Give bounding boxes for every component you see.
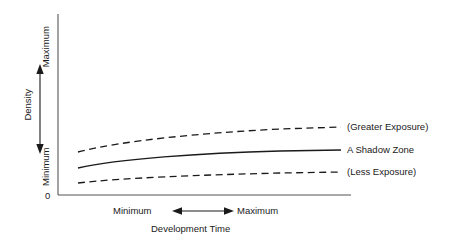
series-label-shadow-zone: A Shadow Zone — [347, 145, 414, 155]
series-line-less-exposure — [78, 172, 341, 183]
y-axis-tick-minimum: Minimum — [41, 137, 51, 197]
x-axis-tick-maximum: Maximum — [237, 206, 278, 216]
series-label-greater-exposure: (Greater Exposure) — [347, 122, 428, 132]
y-axis-title: Density — [23, 85, 33, 125]
chart-figure: Density Maximum Minimum 0 Minimum Maximu… — [0, 0, 454, 244]
series-line-shadow-zone — [78, 150, 341, 168]
series-label-less-exposure: (Less Exposure) — [347, 167, 416, 177]
x-axis-arrow — [172, 207, 234, 214]
y-axis-tick-maximum: Maximum — [41, 17, 51, 77]
x-axis-title: Development Time — [151, 224, 230, 234]
series-line-greater-exposure — [78, 127, 341, 152]
axis-origin-label: 0 — [45, 191, 50, 201]
x-axis-tick-minimum: Minimum — [113, 206, 152, 216]
